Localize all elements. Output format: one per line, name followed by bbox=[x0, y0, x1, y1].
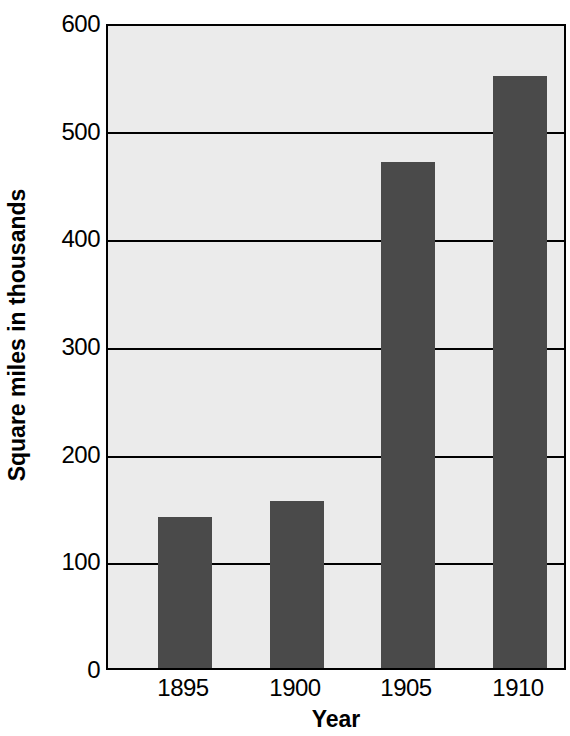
bar-1900 bbox=[270, 501, 324, 668]
x-tick-label-1900: 1900 bbox=[269, 676, 320, 700]
x-tick-label-1910: 1910 bbox=[492, 676, 543, 700]
plot-area bbox=[106, 24, 566, 670]
y-tick-label-0: 0 bbox=[14, 658, 100, 682]
y-tick-label-600: 600 bbox=[14, 12, 100, 36]
y-tick-label-200: 200 bbox=[14, 443, 100, 467]
bar-1910 bbox=[493, 76, 547, 668]
x-tick-label-1905: 1905 bbox=[380, 676, 431, 700]
y-tick-label-100: 100 bbox=[14, 550, 100, 574]
x-axis-title: Year bbox=[106, 708, 566, 731]
bar-1905 bbox=[381, 162, 435, 668]
y-tick-label-400: 400 bbox=[14, 227, 100, 251]
x-tick-label-1895: 1895 bbox=[157, 676, 208, 700]
bar-chart: Square miles in thousands 600 500 400 30… bbox=[0, 0, 570, 736]
y-tick-label-300: 300 bbox=[14, 335, 100, 359]
bar-1895 bbox=[158, 517, 212, 668]
y-tick-label-500: 500 bbox=[14, 120, 100, 144]
x-axis-tick-labels: 1895 1900 1905 1910 bbox=[106, 676, 566, 710]
y-axis-tick-labels: 600 500 400 300 200 100 0 bbox=[8, 0, 100, 736]
